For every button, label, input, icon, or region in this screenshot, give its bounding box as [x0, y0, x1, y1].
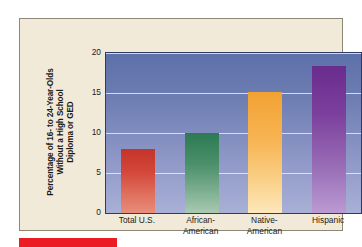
y-tick-label-15: 15: [79, 87, 101, 97]
y-axis-title-line-3: Diploma or GED: [66, 101, 76, 162]
y-axis-title: Percentage of 16- to 24-Year-Olds Withou…: [40, 52, 82, 212]
y-tick-label-5: 5: [79, 167, 101, 177]
x-label-total-us: Total U.S.: [105, 215, 169, 226]
chart-panel: Percentage of 16- to 24-Year-Olds Withou…: [19, 18, 343, 231]
plot-area: [105, 52, 362, 214]
y-axis-title-line-2: Without a High School: [56, 89, 66, 174]
accent-bar: [19, 238, 117, 247]
x-axis-category-labels: Total U.S.African-AmericanNative-America…: [105, 215, 360, 247]
y-tick-label-0: 0: [79, 207, 101, 217]
y-axis-title-line-1: Percentage of 16- to 24-Year-Olds: [46, 68, 56, 195]
bar-native-american[interactable]: [248, 92, 282, 213]
bar-hispanic[interactable]: [312, 66, 346, 213]
x-label-african-american: African-American: [169, 215, 233, 236]
x-label-native-american: Native-American: [233, 215, 297, 236]
bar-african-american[interactable]: [185, 133, 219, 213]
y-tick-label-10: 10: [79, 127, 101, 137]
x-label-hispanic: Hispanic: [296, 215, 360, 226]
bars-layer: [106, 53, 361, 213]
y-tick-label-20: 20: [79, 47, 101, 57]
bar-total-us[interactable]: [121, 149, 155, 213]
y-axis-tick-labels: 05101520: [76, 52, 101, 212]
